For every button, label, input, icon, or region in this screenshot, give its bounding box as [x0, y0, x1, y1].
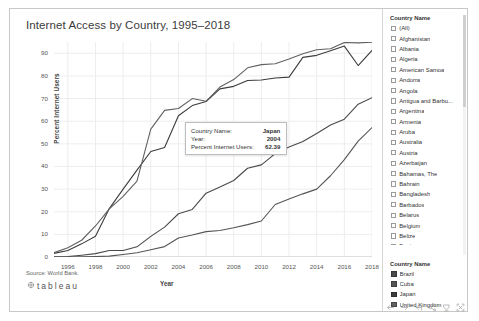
tooltip-row3-value: 62.39: [254, 143, 281, 151]
color-swatch: [391, 271, 397, 277]
country-filter-list[interactable]: (All)AfghanistanAlbaniaAlgeriaAmerican S…: [383, 23, 467, 245]
country-filter-item[interactable]: Bahrain: [383, 179, 467, 189]
y-axis-tick: 10: [30, 230, 48, 237]
checkbox-icon[interactable]: [391, 78, 396, 83]
country-filter-item[interactable]: (All): [383, 23, 467, 33]
country-filter-item-label: Benin: [399, 243, 414, 245]
country-filter-item[interactable]: Austria: [383, 148, 467, 158]
country-filter-item-label: Belarus: [399, 212, 419, 218]
y-axis-label: Percent Internet Users: [53, 61, 60, 157]
checkbox-icon[interactable]: [391, 98, 396, 103]
y-axis-tick: 50: [30, 140, 48, 147]
country-filter-item[interactable]: Angola: [383, 85, 467, 95]
country-filter-item-label: Belize: [399, 233, 415, 239]
country-filter-item-label: Bahamas, The: [399, 171, 437, 177]
tableau-logo[interactable]: tableau: [27, 281, 79, 291]
checkbox-icon[interactable]: [391, 192, 396, 197]
country-filter-item[interactable]: Algeria: [383, 54, 467, 64]
checkbox-icon[interactable]: [391, 223, 396, 228]
country-filter-item-label: American Samoa: [399, 67, 444, 73]
country-filter-header: Country Name: [390, 15, 467, 21]
country-filter-item[interactable]: Afghanistan: [383, 33, 467, 43]
country-filter-item-label: Antigua and Barbu...: [399, 98, 453, 104]
checkbox-icon[interactable]: [391, 244, 396, 245]
y-axis-tick: 40: [30, 162, 48, 169]
checkbox-icon[interactable]: [391, 26, 396, 31]
checkbox-icon[interactable]: [391, 57, 396, 62]
color-legend-item[interactable]: Cuba: [383, 279, 467, 289]
checkbox-icon[interactable]: [391, 88, 396, 93]
country-filter-item[interactable]: Andorra: [383, 75, 467, 85]
country-filter-item[interactable]: Australia: [383, 137, 467, 147]
tooltip-row1-label: Country Name:: [191, 127, 254, 135]
checkbox-icon[interactable]: [391, 140, 396, 145]
checkbox-icon[interactable]: [391, 46, 396, 51]
country-filter-item[interactable]: Belgium: [383, 220, 467, 230]
download-icon[interactable]: [441, 303, 451, 313]
color-legend-item[interactable]: Brazil: [383, 269, 467, 279]
country-filter-item[interactable]: Bahamas, The: [383, 168, 467, 178]
fullscreen-icon[interactable]: [455, 303, 465, 313]
share-icon[interactable]: [427, 303, 437, 313]
checkbox-icon[interactable]: [391, 109, 396, 114]
checkbox-icon[interactable]: [391, 161, 396, 166]
color-swatch: [391, 292, 397, 298]
x-axis-tick: 2000: [110, 263, 136, 270]
checkbox-icon[interactable]: [391, 150, 396, 155]
country-filter-item[interactable]: Barbados: [383, 200, 467, 210]
y-axis-tick: 70: [30, 95, 48, 102]
viz-toolbar[interactable]: [383, 301, 467, 314]
country-filter-item[interactable]: American Samoa: [383, 65, 467, 75]
checkbox-icon[interactable]: [391, 213, 396, 218]
color-legend-item-label: Cuba: [400, 281, 414, 287]
y-axis-tick: 60: [30, 117, 48, 124]
tooltip-row1-value: Japan: [254, 127, 281, 135]
tooltip-row2-label: Year:: [191, 135, 254, 143]
country-filter-item-label: (All): [399, 25, 409, 31]
checkbox-icon[interactable]: [391, 181, 396, 186]
checkbox-icon[interactable]: [391, 171, 396, 176]
x-axis-tick: 2014: [304, 263, 330, 270]
checkbox-icon[interactable]: [391, 36, 396, 41]
country-filter-item[interactable]: Aruba: [383, 127, 467, 137]
country-filter-item[interactable]: Azerbaijan: [383, 158, 467, 168]
country-filter-item-label: Barbados: [399, 202, 424, 208]
legend-pane: Country Name (All)AfghanistanAlbaniaAlge…: [382, 9, 467, 311]
x-axis-tick: 1998: [82, 263, 108, 270]
forward-icon[interactable]: [399, 303, 409, 313]
x-axis-tick: 1996: [55, 263, 81, 270]
country-filter-item[interactable]: Argentina: [383, 106, 467, 116]
back-icon[interactable]: [385, 303, 395, 313]
revert-icon[interactable]: [413, 303, 423, 313]
country-filter-item-label: Armenia: [399, 119, 421, 125]
tooltip-row3-label: Percent Internet Users:: [191, 143, 254, 151]
checkbox-icon[interactable]: [391, 233, 396, 238]
x-axis-tick: 2004: [165, 263, 191, 270]
x-axis-label: Year: [160, 280, 174, 287]
country-filter-item-label: Algeria: [399, 56, 417, 62]
filter-scrollbar-thumb[interactable]: [463, 15, 466, 107]
country-filter-item[interactable]: Bangladesh: [383, 189, 467, 199]
country-filter-item[interactable]: Albania: [383, 44, 467, 54]
country-filter-item[interactable]: Belarus: [383, 210, 467, 220]
y-axis-tick: 20: [30, 208, 48, 215]
country-filter-item[interactable]: Antigua and Barbu...: [383, 96, 467, 106]
checkbox-icon[interactable]: [391, 202, 396, 207]
country-filter-item-label: Bangladesh: [399, 191, 430, 197]
color-legend-item[interactable]: Japan: [383, 289, 467, 299]
color-legend-item-label: Brazil: [400, 271, 415, 277]
checkbox-icon[interactable]: [391, 130, 396, 135]
country-filter-item[interactable]: Armenia: [383, 117, 467, 127]
y-axis-tick: 90: [30, 49, 48, 56]
country-filter-item-label: Angola: [399, 88, 417, 94]
data-point-tooltip: Country Name: Japan Year: 2004 Percent I…: [185, 122, 287, 155]
country-filter-item[interactable]: Benin: [383, 241, 467, 245]
country-filter-item-label: Australia: [399, 139, 422, 145]
tableau-wordmark: tableau: [37, 281, 79, 291]
country-filter-item[interactable]: Belize: [383, 231, 467, 241]
checkbox-icon[interactable]: [391, 67, 396, 72]
x-axis-tick: 2016: [331, 263, 357, 270]
y-axis-tick: 0: [30, 253, 48, 260]
source-note: Source: World Bank.: [26, 270, 79, 276]
checkbox-icon[interactable]: [391, 119, 396, 124]
